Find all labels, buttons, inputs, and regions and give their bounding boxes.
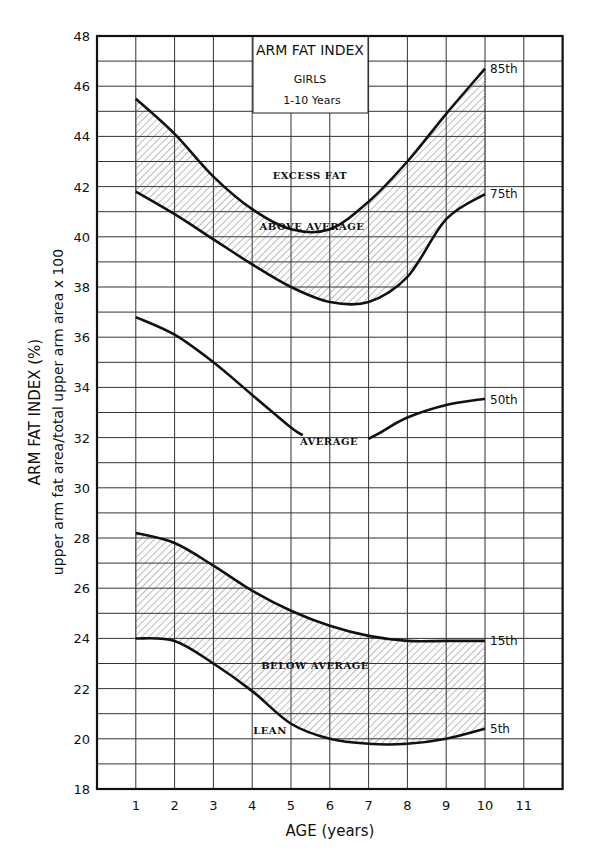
arm-fat-index-chart: ARM FAT INDEX GIRLS 1-10 Years 182022242…	[0, 0, 592, 864]
y-tick-label: 20	[73, 732, 90, 747]
y-tick-label: 22	[73, 682, 90, 697]
x-tick-label: 9	[442, 798, 450, 813]
region-label-excess-fat: EXCESS FAT	[273, 170, 348, 181]
x-tick-label: 5	[287, 798, 295, 813]
region-label-average: AVERAGE	[299, 436, 358, 447]
label-15th: 15th	[490, 634, 518, 648]
x-axis-ticks: 1234567891011	[132, 798, 532, 813]
y-tick-label: 32	[73, 431, 90, 446]
x-tick-label: 6	[326, 798, 334, 813]
y-axis-ticks: 18202224262830323436384042444648	[73, 29, 90, 797]
y-tick-label: 44	[73, 129, 90, 144]
y-tick-label: 48	[73, 29, 90, 44]
x-tick-label: 3	[209, 798, 217, 813]
chart-title: ARM FAT INDEX	[256, 42, 364, 58]
label-5th: 5th	[490, 722, 510, 736]
chart-subtitle: GIRLS	[294, 73, 327, 86]
title-box: ARM FAT INDEX GIRLS 1-10 Years	[253, 37, 368, 113]
x-tick-label: 4	[248, 798, 256, 813]
y-tick-label: 30	[73, 481, 90, 496]
y-tick-label: 46	[73, 79, 90, 94]
y-axis-title: ARM FAT INDEX (%)	[26, 339, 44, 485]
x-tick-label: 2	[170, 798, 178, 813]
y-tick-label: 38	[73, 280, 90, 295]
x-tick-label: 8	[403, 798, 411, 813]
x-tick-label: 10	[477, 798, 494, 813]
region-label-above-average: ABOVE AVERAGE	[259, 221, 365, 232]
region-label-lean: LEAN	[253, 725, 287, 736]
x-tick-label: 11	[516, 798, 533, 813]
y-tick-label: 28	[73, 531, 90, 546]
label-85th: 85th	[490, 62, 518, 76]
x-axis-title: AGE (years)	[286, 822, 375, 840]
x-tick-label: 1	[132, 798, 140, 813]
y-axis-subtitle: upper arm fat area/total upper arm area …	[50, 249, 66, 575]
y-tick-label: 42	[73, 180, 90, 195]
chart-age-range: 1-10 Years	[283, 94, 341, 107]
y-tick-label: 18	[73, 782, 90, 797]
label-50th: 50th	[490, 393, 518, 407]
y-tick-label: 26	[73, 581, 90, 596]
y-tick-label: 24	[73, 631, 90, 646]
label-75th: 75th	[490, 187, 518, 201]
region-label-below-average: BELOW AVERAGE	[261, 660, 369, 671]
curve-50th	[136, 317, 303, 435]
curve-50th	[369, 399, 485, 439]
y-tick-label: 34	[73, 380, 90, 395]
x-tick-label: 7	[364, 798, 372, 813]
y-tick-label: 36	[73, 330, 90, 345]
y-tick-label: 40	[73, 230, 90, 245]
